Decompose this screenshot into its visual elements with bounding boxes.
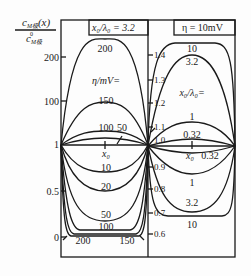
tick-100: 100: [44, 96, 59, 107]
tick-0.7: 0.7: [154, 208, 166, 218]
label-rl10: 10: [187, 219, 197, 230]
right-title: η = 10mV: [182, 22, 224, 33]
label-l20: 20: [101, 181, 111, 192]
ylabel-denominator: cM极: [26, 32, 43, 45]
label-50: 50: [117, 122, 127, 133]
label-rl1: 1: [190, 177, 195, 188]
tick-0.5: 0.5: [47, 186, 60, 197]
label-150: 150: [99, 95, 114, 106]
label-l150: 150: [120, 235, 135, 246]
label-l50: 50: [101, 209, 111, 220]
tick-1.4: 1.4: [154, 50, 166, 60]
tick-1.0: 1.0: [154, 135, 166, 145]
label-200: 200: [98, 43, 113, 54]
tick-0.6: 0.6: [154, 229, 166, 239]
left-title: x₀/λ₀ = 3.2: [91, 22, 135, 33]
left-legend-title: η/mV=: [92, 75, 120, 86]
label-100: 100: [99, 122, 114, 133]
label-rl3.2: 3.2: [186, 197, 199, 208]
tick-1.1: 1.1: [154, 122, 165, 132]
chart: cM极(x) cM极 0 x₀/λ₀ = 3.2 η = 10mV 200 10…: [0, 0, 251, 276]
ylabel-sup: 0: [30, 31, 33, 37]
left-x0-label: x₀: [101, 148, 110, 159]
ylabel-numerator: cM极(x): [22, 16, 50, 29]
right-legend-title: x₀/λ₀=: [178, 87, 204, 98]
tick-0.8: 0.8: [154, 184, 166, 194]
tick-1: 1: [54, 139, 59, 150]
label-r3.2: 3.2: [186, 56, 199, 67]
label-rl0.32: 0.32: [201, 150, 219, 161]
label-l100: 100: [99, 221, 114, 232]
label-r10: 10: [187, 43, 197, 54]
tick-1.3: 1.3: [154, 75, 166, 85]
label-r1: 1: [190, 111, 195, 122]
tick-200: 200: [44, 52, 59, 63]
label-l200: 200: [76, 235, 91, 246]
label-l10: 10: [101, 162, 111, 173]
right-x0-label: x₀: [185, 150, 194, 161]
tick-1.2: 1.2: [154, 98, 165, 108]
tick-0.9: 0.9: [154, 162, 166, 172]
tick-0: 0: [54, 232, 59, 243]
label-r0.32: 0.32: [183, 129, 201, 140]
